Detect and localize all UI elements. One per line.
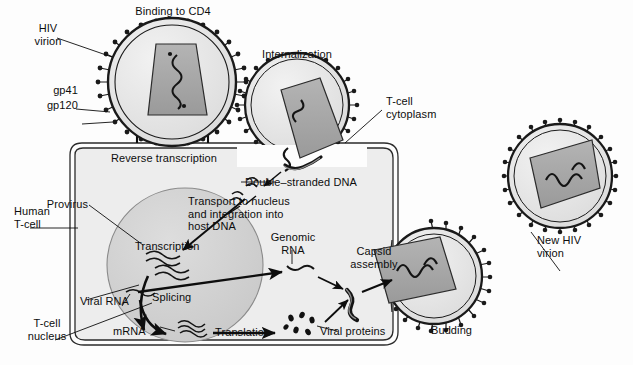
label-gp120: gp120: [20, 99, 78, 112]
hiv-virion-internalizing: [235, 53, 367, 171]
label-double-stranded-dna: Double–stranded DNA: [245, 176, 357, 189]
hiv-replication-diagram: HIV virion Binding to CD4 gp41 gp120 Int…: [0, 0, 633, 365]
label-human-tcell: Human T-cell: [14, 205, 50, 230]
label-transcription: Transcription: [135, 240, 199, 253]
hiv-virion-new: [502, 118, 619, 235]
label-new-hiv-virion: New HIV virion: [537, 234, 581, 259]
label-tcell-nucleus: T-cell nucleus: [14, 317, 80, 342]
label-gp41: gp41: [26, 84, 78, 97]
label-binding-to-cd4: Binding to CD4: [93, 5, 253, 18]
label-capsid-assembly: Capsid assembly: [338, 245, 410, 270]
label-genomic-rna: Genomic RNA: [258, 231, 328, 256]
label-viral-rna: Viral RNA: [80, 295, 129, 308]
scan-caption-fragment: [0, 351, 633, 365]
label-reverse-transcription: Reverse transcription: [111, 152, 217, 165]
label-budding: Budding: [431, 324, 472, 337]
label-splicing: Splicing: [152, 291, 191, 304]
label-hiv-virion: HIV virion: [18, 22, 78, 47]
label-mrna: mRNA: [113, 325, 146, 338]
label-translation: Translation: [215, 326, 270, 339]
label-tcell-cytoplasm: T-cell cytoplasm: [386, 95, 436, 120]
label-viral-proteins: Viral proteins: [320, 325, 385, 338]
hiv-virion-binding: [96, 18, 249, 147]
label-transport-to-nucleus: Transport to nucleus and integration int…: [188, 195, 290, 233]
label-internalization: Internalization: [222, 48, 372, 61]
